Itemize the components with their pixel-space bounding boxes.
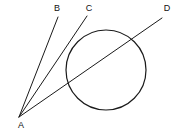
point-label-a: A	[18, 120, 24, 130]
geometry-figure: A B C D	[0, 0, 180, 133]
main-circle	[66, 30, 146, 110]
point-label-d: D	[164, 3, 171, 13]
point-label-b: B	[54, 3, 60, 13]
point-label-c: C	[86, 3, 93, 13]
geometry-canvas: A B C D	[0, 0, 180, 133]
